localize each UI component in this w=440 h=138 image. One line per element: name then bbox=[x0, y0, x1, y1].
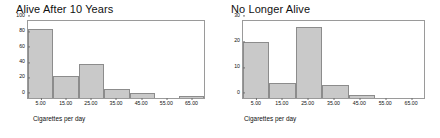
y-axis-tick-label: 100 bbox=[16, 13, 28, 18]
figure-canvas: Alive After 10 Years 0204060801005.0015.… bbox=[0, 0, 440, 138]
plot-area-right: 01020305.0015.0025.0035.0045.0055.0065.0… bbox=[242, 20, 425, 99]
x-axis-tick-label: 15.00 bbox=[275, 101, 288, 106]
x-axis-tick-label: 5.00 bbox=[251, 101, 261, 106]
x-axis-tick-label: 15.00 bbox=[59, 101, 72, 106]
histogram-bar bbox=[28, 29, 53, 98]
chart-panel-alive-after-10-years: Alive After 10 Years 0204060801005.0015.… bbox=[0, 0, 220, 138]
x-axis-tick-label: 65.00 bbox=[405, 101, 418, 106]
y-axis-tick-label: 40 bbox=[19, 59, 28, 64]
x-axis-label-right: Cigarettes per day bbox=[244, 115, 296, 122]
chart-title-left: Alive After 10 Years bbox=[16, 3, 113, 15]
x-axis-tick-label: 35.00 bbox=[110, 101, 123, 106]
y-axis-tick-label: 20 bbox=[19, 75, 28, 80]
histogram-bar bbox=[349, 95, 375, 98]
y-axis-tick-label: 0 bbox=[237, 90, 243, 95]
x-axis-tick-label: 5.00 bbox=[36, 101, 46, 106]
x-axis-tick-label: 55.00 bbox=[160, 101, 173, 106]
plot-area-left: 0204060801005.0015.0025.0035.0045.0055.0… bbox=[27, 20, 205, 99]
y-axis-tick-label: 60 bbox=[19, 44, 28, 49]
x-axis-tick-label: 35.00 bbox=[327, 101, 340, 106]
y-axis-tick-label: 30 bbox=[234, 13, 243, 18]
y-axis-tick-label: 20 bbox=[234, 39, 243, 44]
y-axis-tick-label: 10 bbox=[234, 65, 243, 70]
histogram-bar bbox=[53, 76, 78, 98]
x-axis-tick-label: 45.00 bbox=[353, 101, 366, 106]
x-axis-tick-label: 25.00 bbox=[301, 101, 314, 106]
histogram-bar bbox=[322, 85, 348, 98]
histogram-bar bbox=[269, 83, 295, 98]
histogram-bar bbox=[243, 42, 269, 98]
x-axis-tick-label: 45.00 bbox=[135, 101, 148, 106]
y-axis-tick-label: 80 bbox=[19, 29, 28, 34]
histogram-bar bbox=[104, 89, 129, 98]
histogram-bar bbox=[296, 27, 322, 98]
bar-series-left bbox=[28, 21, 204, 98]
x-axis-label-left: Cigarettes per day bbox=[33, 115, 85, 122]
chart-panel-no-longer-alive: No Longer Alive 01020305.0015.0025.0035.… bbox=[220, 0, 440, 138]
bar-series-right bbox=[243, 21, 424, 98]
histogram-bar bbox=[79, 64, 104, 98]
x-axis-tick-label: 25.00 bbox=[84, 101, 97, 106]
y-axis-tick-label: 0 bbox=[22, 90, 28, 95]
histogram-bar bbox=[130, 93, 155, 98]
x-axis-tick-label: 55.00 bbox=[379, 101, 392, 106]
x-axis-tick-label: 65.00 bbox=[185, 101, 198, 106]
